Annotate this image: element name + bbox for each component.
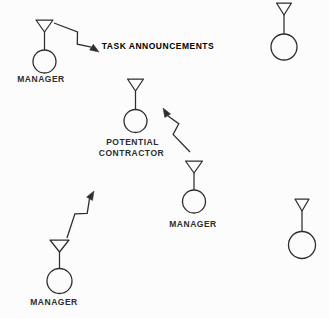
antenna-icon <box>50 240 69 252</box>
node-label: MANAGER <box>17 74 64 84</box>
agent-node-agent-bottom-right <box>289 199 316 259</box>
node-label: POTENTIAL <box>106 137 159 147</box>
bolt-line <box>168 116 190 152</box>
agent-node-agent-top-right <box>271 3 297 60</box>
task-announcement-bolt-top-left <box>54 23 99 52</box>
arrows-layer <box>54 23 190 238</box>
task-announcements-label: TASK ANNOUNCEMENTS <box>102 41 214 51</box>
agent-circle <box>124 110 147 133</box>
node-label: MANAGER <box>30 297 77 307</box>
arrowhead-icon <box>87 191 94 201</box>
bolt-line <box>54 23 91 47</box>
antenna-icon <box>186 161 203 173</box>
antenna-icon <box>128 79 144 91</box>
arrowhead-icon <box>163 108 171 117</box>
bolt-line <box>67 199 90 238</box>
contract-net-figure: MANAGERPOTENTIALCONTRACTORMANAGERMANAGER… <box>0 0 329 318</box>
agent-node-manager-top-left: MANAGER <box>17 20 64 84</box>
agent-circle <box>47 269 72 294</box>
antenna-icon <box>36 20 53 32</box>
antenna-icon <box>295 199 309 211</box>
antenna-icon <box>277 3 292 15</box>
agent-node-manager-middle: MANAGER <box>169 161 216 229</box>
agent-circle <box>271 34 297 60</box>
arrowhead-icon <box>90 44 99 52</box>
node-label: CONTRACTOR <box>99 148 164 158</box>
node-label: MANAGER <box>169 219 216 229</box>
diagram-canvas: MANAGERPOTENTIALCONTRACTORMANAGERMANAGER… <box>0 0 329 318</box>
agent-circle <box>33 50 56 73</box>
agent-node-manager-bottom-left: MANAGER <box>30 240 77 307</box>
task-announcement-bolt-bottom-left <box>67 191 94 238</box>
agent-circle <box>289 232 316 259</box>
agent-circle <box>183 190 206 213</box>
task-announcement-bolt-middle <box>163 108 190 152</box>
agent-node-potential-contractor: POTENTIALCONTRACTOR <box>99 79 164 158</box>
